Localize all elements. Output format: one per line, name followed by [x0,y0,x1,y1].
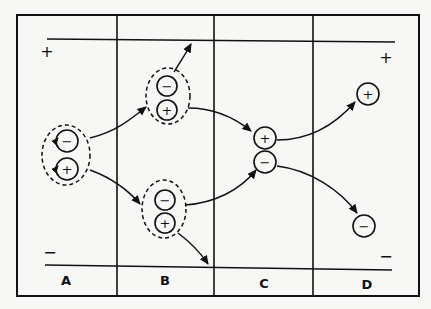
arrow-b-lower-to-bottom [178,233,208,264]
column-label-a: A [61,273,71,288]
negative-sign: − [359,219,370,234]
negative-sign: − [260,155,271,170]
top-right-plus-sign: + [379,48,392,67]
arrow-c-to-d-positive [277,102,355,140]
positive-sign: + [160,216,171,231]
positive-sign: + [363,87,374,102]
column-label-c: C [259,276,269,291]
positive-sign: + [260,131,271,146]
negative-sign: − [62,134,73,149]
trajectory-arrows [90,44,357,264]
top-plate [47,39,395,42]
ions-c: + − [254,127,276,173]
ion-pair-b-upper: − + [146,68,190,124]
bottom-right-minus-sign: − [379,247,392,266]
ion-pair-b-lower: − + [142,180,186,238]
negative-sign: − [162,79,173,94]
diagram-canvas: + + − − A B C D − + − + − + + − [0,0,431,309]
column-label-d: D [362,277,373,292]
negative-sign: − [160,193,171,208]
arrow-a-to-b-upper [90,107,146,138]
column-label-b: B [160,273,170,288]
arrow-b-lower-to-c [185,170,256,205]
arrow-c-to-d-negative [277,166,357,213]
ion-pair-diagram: + + − − A B C D − + − + − + + − [0,0,431,309]
top-left-plus-sign: + [40,42,53,61]
arrow-a-to-b-lower [90,170,140,204]
bottom-left-minus-sign: − [43,243,56,262]
arrow-b-upper-to-c [188,108,251,131]
outer-frame [17,15,419,296]
ions-d: + − [353,83,379,237]
positive-sign: + [62,162,73,177]
ion-pair-a: − + [42,125,90,185]
arrow-b-upper-to-top [174,44,191,72]
bottom-plate [45,265,392,270]
positive-sign: + [162,103,173,118]
